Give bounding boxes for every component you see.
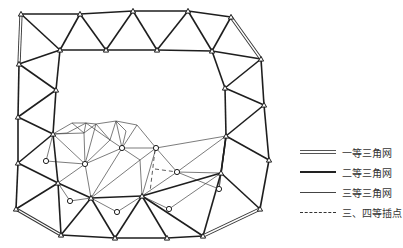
- network-edge: [142, 173, 221, 196]
- legend-item-interpolation: 三、四等插点: [300, 202, 403, 222]
- legend-label: 二等三角网: [342, 165, 392, 180]
- network-edge: [226, 136, 269, 160]
- interpolated-point-icon: [216, 186, 221, 191]
- network-edge: [91, 198, 115, 238]
- network-edge: [58, 164, 85, 183]
- interpolated-point-icon: [114, 209, 119, 214]
- triangulation-station-icon: [228, 14, 233, 19]
- network-edge: [16, 163, 18, 209]
- triangulation-station-icon: [16, 61, 21, 66]
- network-edge: [91, 196, 142, 198]
- network-edge: [110, 121, 116, 140]
- network-edge: [72, 123, 84, 133]
- network-edge: [231, 17, 261, 59]
- network-edge: [225, 88, 226, 136]
- network-edge: [156, 136, 226, 148]
- second-order-network: [16, 11, 269, 238]
- network-edge: [58, 183, 61, 235]
- network-edge: [140, 160, 142, 196]
- triangulation-station-icon: [18, 11, 23, 16]
- network-edge: [137, 125, 156, 148]
- network-edge: [16, 209, 61, 235]
- network-edge: [203, 209, 260, 236]
- network-edge: [188, 11, 231, 17]
- network-edge: [86, 123, 110, 140]
- network-edge: [96, 124, 110, 140]
- network-edge: [19, 50, 60, 64]
- network-edge: [91, 160, 140, 198]
- network-edge: [122, 148, 140, 160]
- network-edge: [150, 150, 155, 192]
- network-edge: [61, 198, 91, 235]
- network-edge: [85, 164, 91, 198]
- network-edge: [46, 161, 85, 164]
- network-edge: [115, 196, 142, 238]
- network-edge: [155, 169, 177, 172]
- interpolated-point-icon: [67, 198, 72, 203]
- triangulation-station-icon: [130, 8, 135, 13]
- legend-label: 三等三角网: [342, 185, 392, 200]
- third-order-network: [46, 121, 226, 212]
- legend-item-first-order: 一等三角网: [300, 142, 403, 162]
- network-edge: [156, 148, 177, 172]
- network-edge: [91, 148, 122, 198]
- network-edge: [18, 64, 19, 117]
- network-edge: [264, 105, 269, 160]
- thin-line-icon: [300, 192, 336, 193]
- network-edge: [53, 123, 72, 134]
- interpolated-point-icon: [119, 145, 124, 150]
- network-edge: [169, 173, 221, 209]
- triangulation-station-icon: [55, 180, 60, 185]
- double-line-icon: [300, 150, 336, 154]
- network-edge: [53, 90, 56, 134]
- legend-label: 三、四等插点: [342, 205, 402, 220]
- network-edge: [167, 236, 203, 238]
- triangulation-station-icon: [261, 102, 266, 107]
- legend-item-third-order: 三等三角网: [300, 182, 403, 202]
- network-edge: [142, 196, 203, 236]
- network-edge: [157, 11, 188, 50]
- interpolated-point-icon: [153, 145, 158, 150]
- network-edge: [61, 235, 115, 238]
- triangulation-station-icon: [218, 170, 223, 175]
- network-edge: [203, 173, 221, 236]
- network-edge: [225, 59, 261, 88]
- network-edge: [85, 140, 110, 164]
- network-edge: [80, 14, 106, 50]
- dashed-line-icon: [300, 212, 336, 213]
- legend-label: 一等三角网: [342, 145, 392, 160]
- legend-item-second-order: 二等三角网: [300, 162, 403, 182]
- triangulation-station-icon: [50, 131, 55, 136]
- network-edge: [142, 172, 177, 196]
- network-edge: [188, 11, 212, 51]
- thick-line-icon: [300, 171, 336, 173]
- network-edge: [85, 148, 122, 164]
- network-edge: [18, 90, 56, 117]
- network-edge: [221, 136, 226, 173]
- network-edge: [122, 125, 137, 148]
- interpolated-point-icon: [82, 161, 87, 166]
- network-edge: [225, 88, 264, 105]
- network-edge: [133, 11, 157, 50]
- interpolated-point-icon: [174, 169, 179, 174]
- interpolated-point-icon: [166, 206, 171, 211]
- network-edge: [53, 134, 58, 183]
- network-edge: [212, 17, 231, 51]
- triangulation-station-icon: [139, 193, 144, 198]
- network-edge: [116, 121, 122, 148]
- triangulation-station-icon: [88, 195, 93, 200]
- network-edge: [60, 14, 80, 50]
- network-edge: [19, 64, 56, 90]
- interpolated-point-icon: [43, 158, 48, 163]
- network-edge: [157, 50, 212, 51]
- network-edge: [260, 160, 269, 209]
- network-edge: [21, 14, 60, 50]
- network-edge: [212, 51, 261, 59]
- triangulation-station-icon: [185, 8, 190, 13]
- network-edge: [16, 183, 58, 209]
- network-edge: [85, 124, 96, 164]
- network-edge: [18, 117, 53, 134]
- network-edge: [18, 163, 58, 183]
- network-edge: [177, 172, 221, 173]
- network-edge: [177, 136, 226, 172]
